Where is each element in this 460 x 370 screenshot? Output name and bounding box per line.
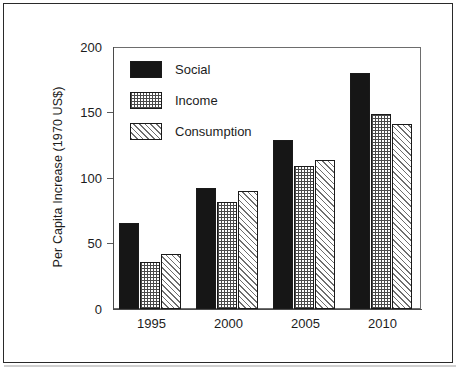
bar-income-2010 bbox=[371, 114, 391, 309]
bar-social-2010 bbox=[350, 73, 370, 309]
legend-item-social: Social bbox=[130, 56, 280, 82]
legend-item-consumption: Consumption bbox=[130, 118, 280, 144]
bar-social-2000 bbox=[196, 188, 216, 309]
y-tick-label-50: 50 bbox=[42, 236, 102, 251]
bar-income-1995 bbox=[140, 262, 160, 309]
bar-consumption-1995 bbox=[161, 254, 181, 309]
y-axis-tick-labels: 0 50 100 150 200 bbox=[40, 0, 102, 370]
legend-swatch-social-icon bbox=[130, 61, 162, 78]
x-tick-label-1995: 1995 bbox=[117, 316, 187, 331]
legend-swatch-consumption-icon bbox=[130, 123, 162, 140]
legend-label-income: Income bbox=[175, 93, 218, 108]
x-axis-tick-labels: 1995200020052010 bbox=[113, 316, 421, 340]
y-tick-label-0: 0 bbox=[42, 302, 102, 317]
legend-label-consumption: Consumption bbox=[175, 124, 252, 139]
y-tick-label-150: 150 bbox=[42, 105, 102, 120]
bar-social-2005 bbox=[273, 140, 293, 309]
bar-consumption-2005 bbox=[315, 160, 335, 309]
legend: Social Income Consumption bbox=[130, 56, 280, 149]
bar-consumption-2000 bbox=[238, 191, 258, 309]
x-tick-label-2005: 2005 bbox=[271, 316, 341, 331]
bar-social-1995 bbox=[119, 223, 139, 309]
bar-income-2005 bbox=[294, 166, 314, 309]
y-tick-label-200: 200 bbox=[42, 40, 102, 55]
x-axis-line bbox=[113, 309, 422, 310]
bar-income-2000 bbox=[217, 202, 237, 309]
legend-swatch-income-icon bbox=[130, 92, 162, 109]
legend-label-social: Social bbox=[175, 62, 210, 77]
x-tick-label-2000: 2000 bbox=[194, 316, 264, 331]
bar-chart-figure: Per Capita Increase (1970 US$) 0 50 100 … bbox=[0, 0, 460, 370]
bar-consumption-2010 bbox=[392, 124, 412, 309]
y-tick-label-100: 100 bbox=[42, 171, 102, 186]
x-tick-label-2010: 2010 bbox=[348, 316, 418, 331]
legend-item-income: Income bbox=[130, 87, 280, 113]
